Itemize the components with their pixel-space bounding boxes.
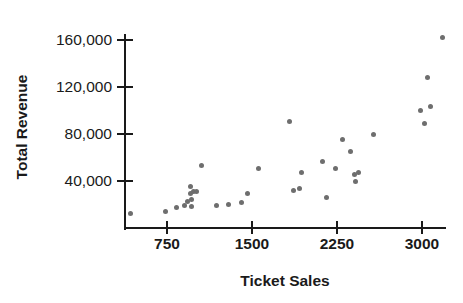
y-axis-line: [124, 34, 126, 230]
data-point: [422, 121, 427, 126]
data-point: [226, 202, 231, 207]
data-point: [418, 108, 423, 113]
data-point: [299, 170, 304, 175]
data-point: [297, 186, 302, 191]
data-point: [214, 203, 219, 208]
x-tick-mark: [336, 221, 338, 234]
data-point: [428, 104, 433, 109]
scatter-plot-figure: 40,00080,000120,000160,000 7501500225030…: [0, 0, 463, 303]
data-point: [245, 191, 250, 196]
data-point: [333, 166, 338, 171]
x-tick-label: 2250: [297, 236, 377, 252]
data-point: [239, 200, 244, 205]
data-point: [340, 137, 345, 142]
data-point: [194, 189, 199, 194]
x-tick-label: 1500: [212, 236, 292, 252]
data-point: [163, 209, 168, 214]
data-point: [356, 170, 361, 175]
y-tick-label: 160,000: [0, 32, 112, 48]
data-point: [291, 188, 296, 193]
x-tick-label: 3000: [382, 236, 462, 252]
data-point: [256, 166, 261, 171]
y-axis-title: Total Revenue: [13, 61, 31, 193]
data-point: [440, 35, 445, 40]
data-point: [324, 195, 329, 200]
x-axis-title: Ticket Sales: [124, 272, 446, 290]
data-point: [189, 204, 194, 209]
data-point: [425, 75, 430, 80]
data-point: [174, 205, 179, 210]
x-tick-mark: [166, 221, 168, 234]
y-tick-mark: [117, 39, 133, 41]
data-point: [353, 179, 358, 184]
y-tick-mark: [117, 133, 133, 135]
x-tick-mark: [251, 221, 253, 234]
y-tick-mark: [117, 86, 133, 88]
x-axis-line: [124, 227, 446, 229]
x-tick-mark: [421, 221, 423, 234]
x-tick-label: 750: [127, 236, 207, 252]
data-point: [128, 211, 133, 216]
data-point: [287, 119, 292, 124]
data-point: [189, 197, 194, 202]
data-point: [348, 149, 353, 154]
data-point: [371, 132, 376, 137]
y-tick-mark: [117, 180, 133, 182]
y-tick-label-text: 160,000: [0, 32, 112, 48]
data-point: [199, 163, 204, 168]
data-point: [320, 159, 325, 164]
